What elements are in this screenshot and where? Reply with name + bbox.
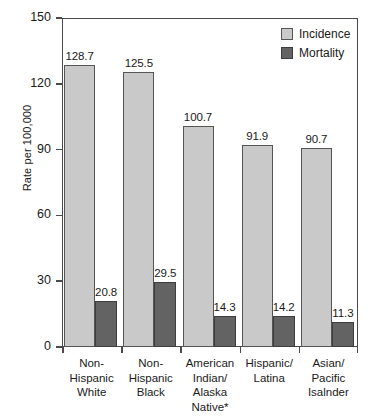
y-axis-tick-label: 0 [44, 339, 51, 353]
y-axis-tick-label: 120 [30, 76, 51, 90]
x-axis-tick-mark [240, 347, 242, 353]
x-axis-group-label-line: Black [118, 385, 183, 400]
bar-mortality [95, 301, 117, 347]
x-axis-group-label: Non-HispanicBlack [118, 356, 183, 400]
y-axis-tick-label: 150 [30, 10, 51, 24]
legend-item-label: Incidence [299, 27, 350, 41]
x-axis-group-label-line: Hispanic [118, 371, 183, 386]
bar-incidence [123, 72, 154, 347]
bar-incidence [183, 126, 214, 347]
bar-incidence [242, 145, 273, 347]
bar-value-label-incidence: 91.9 [236, 130, 279, 142]
x-axis-group-label-line: Hispanic [59, 371, 124, 386]
legend-item-label: Mortality [299, 46, 344, 60]
bar-chart: Rate per 100,000 0306090120150 128.720.8… [0, 0, 370, 419]
bar-value-label-incidence: 125.5 [117, 57, 160, 69]
legend-item: Incidence [281, 24, 350, 43]
bar-value-label-mortality: 14.3 [207, 301, 243, 313]
x-axis-group-label-line: Hispanic/ [237, 356, 302, 371]
bar-value-label-mortality: 20.8 [88, 286, 124, 298]
bar-value-label-mortality: 29.5 [147, 267, 183, 279]
bar-value-label-incidence: 128.7 [58, 50, 101, 62]
x-axis-tick-mark [357, 347, 359, 353]
bar-mortality [154, 282, 176, 347]
x-axis-group-label-line: American [177, 356, 242, 371]
legend-swatch-icon [281, 28, 293, 40]
x-axis-tick-mark [299, 347, 301, 353]
y-axis-tick-label: 30 [37, 273, 51, 287]
bar-value-label-mortality: 11.3 [325, 307, 361, 319]
x-axis-group-label: Non-HispanicWhite [59, 356, 124, 400]
x-axis-group-label-line: Pacific [296, 371, 361, 386]
bars-layer: 128.720.8125.529.5100.714.391.914.290.71… [62, 18, 358, 347]
x-axis-group-label-line: Non- [118, 356, 183, 371]
legend-swatch-icon [281, 47, 293, 59]
x-axis-group-label-line: Non- [59, 356, 124, 371]
y-axis-tick-label: 90 [37, 142, 51, 156]
x-axis-tick-mark [180, 347, 182, 353]
x-axis-group-label-line: Indian/ [177, 371, 242, 386]
bar-value-label-mortality: 14.2 [266, 301, 302, 313]
x-axis-group-label-line: Latina [237, 371, 302, 386]
x-axis-group-label-line: Asian/ [296, 356, 361, 371]
chart-legend: IncidenceMortality [281, 24, 350, 62]
x-axis-group-label-line: Isalnder [296, 385, 361, 400]
bar-value-label-incidence: 100.7 [177, 111, 220, 123]
legend-item: Mortality [281, 43, 350, 62]
x-axis-group-label: AmericanIndian/AlaskaNative* [177, 356, 242, 414]
bar-value-label-incidence: 90.7 [295, 133, 338, 145]
bar-mortality [273, 316, 295, 347]
bar-incidence [64, 65, 95, 347]
x-axis-tick-mark [121, 347, 123, 353]
y-axis-tick-label: 60 [37, 207, 51, 221]
bar-mortality [214, 316, 236, 347]
x-axis-group-label-line: White [59, 385, 124, 400]
x-axis-group-label: Hispanic/Latina [237, 356, 302, 385]
x-axis-tick-mark [62, 347, 64, 353]
bar-mortality [332, 322, 354, 347]
x-axis-group-label-line: Native* [177, 400, 242, 415]
x-axis-group-label: Asian/PacificIsalnder [296, 356, 361, 400]
x-axis-group-label-line: Alaska [177, 385, 242, 400]
